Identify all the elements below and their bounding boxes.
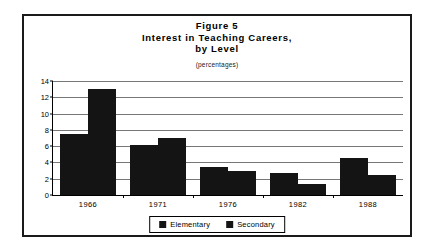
bar-elementary-1982 (270, 173, 298, 195)
x-axis-tick-mark (263, 195, 264, 198)
y-axis-tick-mark (50, 178, 53, 179)
x-axis-tick-label-1976: 1976 (219, 200, 237, 209)
bar-elementary-1988 (340, 158, 368, 195)
y-axis-tick-mark (50, 129, 53, 130)
bar-secondary-1988 (368, 175, 396, 195)
x-axis-tick-mark (333, 195, 334, 198)
y-axis-tick-label: 8 (45, 125, 49, 134)
plot-area: 0246810121419661971197619821988 (52, 81, 403, 196)
x-axis-tick-label-1982: 1982 (289, 200, 307, 209)
figure-title-line-2: by Level (24, 43, 410, 55)
bar-group-1971 (130, 81, 186, 195)
y-axis-tick-mark (50, 195, 53, 196)
x-axis-tick-label-1988: 1988 (359, 200, 377, 209)
bar-group-1988 (340, 81, 396, 195)
bar-secondary-1971 (158, 138, 186, 195)
legend-swatch-elementary-icon (159, 221, 166, 228)
legend-item-secondary: Secondary (226, 220, 275, 229)
bar-secondary-1982 (298, 184, 326, 195)
y-axis-tick-mark (50, 162, 53, 163)
chart-legend: ElementarySecondary (149, 216, 285, 233)
x-axis-tick-mark (123, 195, 124, 198)
y-axis-tick-mark (50, 81, 53, 82)
figure-subtitle: (percentages) (24, 61, 410, 68)
y-axis-tick-label: 4 (45, 158, 49, 167)
bar-group-1982 (270, 81, 326, 195)
figure-frame: Figure 5 Interest in Teaching Careers, b… (22, 14, 412, 237)
bar-elementary-1966 (60, 134, 88, 195)
bar-group-1976 (200, 81, 256, 195)
bar-elementary-1971 (130, 145, 158, 195)
x-axis-tick-label-1971: 1971 (149, 200, 167, 209)
legend-label-secondary: Secondary (237, 220, 275, 229)
y-axis-tick-label: 2 (45, 174, 49, 183)
legend-swatch-secondary-icon (226, 221, 233, 228)
y-axis-tick-label: 0 (45, 191, 49, 200)
y-axis-tick-label: 6 (45, 142, 49, 151)
figure-number: Figure 5 (24, 20, 410, 32)
y-axis-tick-label: 12 (41, 93, 49, 102)
x-axis-tick-label-1966: 1966 (79, 200, 97, 209)
y-axis-tick-mark (50, 113, 53, 114)
bar-secondary-1966 (88, 89, 116, 195)
y-axis-tick-mark (50, 146, 53, 147)
y-axis-tick-mark (50, 97, 53, 98)
figure-title-line-1: Interest in Teaching Careers, (24, 32, 410, 44)
legend-label-elementary: Elementary (170, 220, 210, 229)
y-axis-tick-label: 14 (41, 77, 49, 86)
bar-group-1966 (60, 81, 116, 195)
x-axis-tick-mark (193, 195, 194, 198)
bar-elementary-1976 (200, 167, 228, 195)
y-axis-tick-label: 10 (41, 109, 49, 118)
bar-secondary-1976 (228, 171, 256, 195)
legend-item-elementary: Elementary (159, 220, 210, 229)
title-block: Figure 5 Interest in Teaching Careers, b… (24, 20, 410, 68)
